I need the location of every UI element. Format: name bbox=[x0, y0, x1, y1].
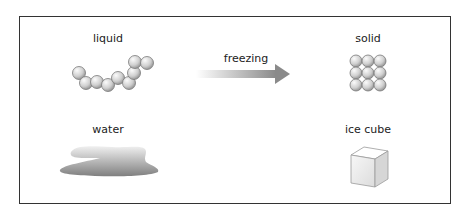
arrow-right-icon bbox=[196, 64, 290, 84]
liquid-label: liquid bbox=[93, 32, 123, 45]
freezing-label: freezing bbox=[224, 52, 268, 65]
diagram-art bbox=[0, 0, 470, 218]
water-label: water bbox=[92, 123, 123, 136]
water-puddle-icon bbox=[60, 146, 158, 176]
liquid-molecules-icon bbox=[73, 56, 154, 92]
ice-cube-icon bbox=[351, 147, 388, 187]
ice-cube-label: ice cube bbox=[345, 123, 391, 136]
solid-molecules-icon bbox=[350, 55, 386, 91]
solid-label: solid bbox=[355, 32, 381, 45]
